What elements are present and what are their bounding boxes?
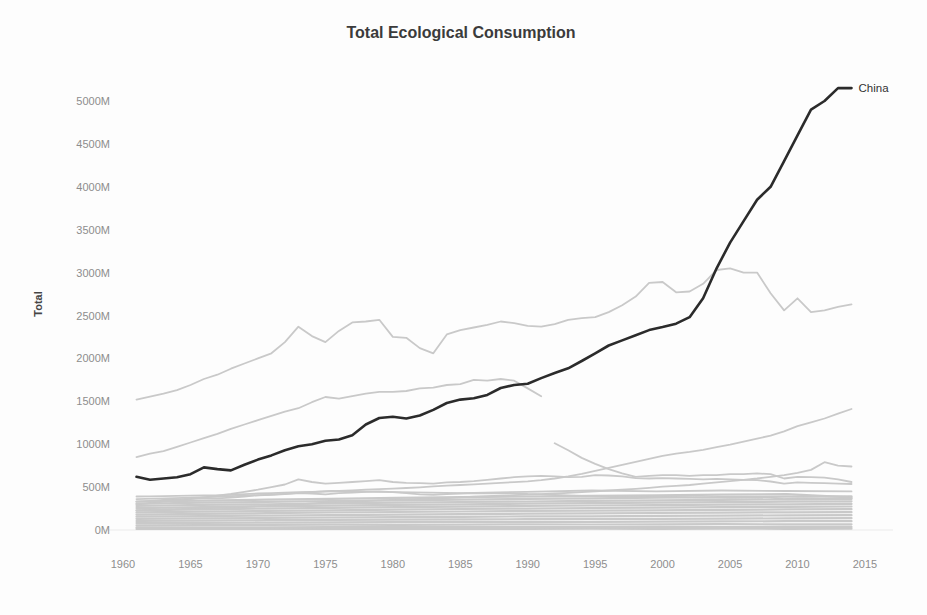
chart-container: Total Ecological Consumption Total 0M500… <box>0 0 927 615</box>
x-tick-label: 1970 <box>246 558 270 570</box>
y-tick-label: 2500M <box>76 310 110 322</box>
china-series-label: China <box>859 82 890 94</box>
china-series-line <box>137 88 852 480</box>
gray-series-line <box>137 524 852 525</box>
y-tick-label: 4000M <box>76 181 110 193</box>
gray-series-line <box>137 521 852 523</box>
y-tick-label: 3500M <box>76 224 110 236</box>
y-tick-label: 0M <box>95 524 110 536</box>
y-tick-label: 500M <box>82 481 110 493</box>
x-tick-label: 1980 <box>381 558 405 570</box>
x-tick-label: 2000 <box>650 558 674 570</box>
y-tick-label: 4500M <box>76 138 110 150</box>
y-axis-title: Total <box>32 291 44 316</box>
plot-area: 0M500M1000M1500M2000M2500M3000M3500M4000… <box>76 82 893 570</box>
y-tick-label: 2000M <box>76 352 110 364</box>
x-tick-label: 1975 <box>313 558 337 570</box>
chart-title: Total Ecological Consumption <box>346 24 575 41</box>
x-tick-label: 2015 <box>853 558 877 570</box>
y-tick-label: 1500M <box>76 395 110 407</box>
gray-series-line <box>137 527 852 528</box>
x-tick-label: 1960 <box>111 558 135 570</box>
gray-series-line <box>137 379 542 457</box>
y-tick-label: 5000M <box>76 95 110 107</box>
x-tick-label: 2010 <box>785 558 809 570</box>
y-tick-label: 1000M <box>76 438 110 450</box>
gray-series-line <box>137 409 852 497</box>
x-tick-label: 1990 <box>515 558 539 570</box>
x-tick-label: 1985 <box>448 558 472 570</box>
line-chart: Total Ecological Consumption Total 0M500… <box>0 0 927 615</box>
x-tick-label: 1965 <box>178 558 202 570</box>
y-tick-label: 3000M <box>76 267 110 279</box>
x-tick-label: 1995 <box>583 558 607 570</box>
x-tick-label: 2005 <box>718 558 742 570</box>
